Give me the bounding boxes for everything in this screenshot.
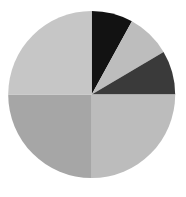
pie-slice-4 [92, 95, 176, 179]
pie-slice-6 [8, 11, 92, 95]
pie-slice-5 [8, 95, 92, 179]
pie-chart-svg [0, 0, 186, 197]
pie-chart [0, 0, 186, 197]
